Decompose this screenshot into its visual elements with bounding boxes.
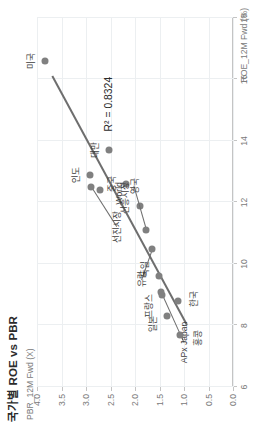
data-point-label: 일본: [146, 316, 158, 332]
data-point[interactable]: [159, 291, 166, 298]
data-point[interactable]: [96, 187, 103, 194]
page-title: 국가별 ROE vs PBR: [4, 316, 20, 422]
y-axis-label: PBR_12M Fwd (X): [25, 348, 35, 420]
data-point-label: 한국: [187, 291, 199, 307]
data-point-label: 중국: [105, 176, 117, 192]
y-tick-label: 3.5: [57, 394, 67, 406]
gridline-horizontal: [233, 18, 234, 387]
plot-area: 6810121416180.00.51.01.52.02.53.03.54.0미…: [37, 18, 233, 387]
y-tick-mark: [111, 387, 112, 391]
data-point-label: 인도: [69, 167, 81, 183]
y-tick-label: 1.5: [155, 394, 165, 406]
data-point[interactable]: [41, 58, 48, 65]
data-point-label: 독일: [138, 261, 150, 277]
data-point[interactable]: [143, 227, 150, 234]
gridline-horizontal: [86, 18, 87, 387]
gridline-horizontal: [209, 18, 210, 387]
y-tick-label: 0.0: [228, 394, 238, 406]
data-point-label: 선진시장: [110, 211, 122, 243]
x-tick-label: 18: [239, 13, 249, 23]
y-tick-mark: [135, 387, 136, 391]
data-point-label: 홍콩: [191, 330, 203, 346]
y-tick-label: 2.5: [106, 394, 116, 406]
data-point[interactable]: [163, 313, 170, 320]
data-point-label: APx Japan: [179, 322, 189, 364]
data-point[interactable]: [86, 171, 93, 178]
y-tick-mark: [62, 387, 63, 391]
y-tick-label: 3.0: [81, 394, 91, 406]
x-tick-label: 10: [239, 259, 249, 269]
r-squared-annotation: R² = 0.8324: [103, 77, 114, 132]
data-point-label: 미국: [24, 53, 36, 69]
y-tick-label: 1.0: [179, 394, 189, 406]
data-point[interactable]: [155, 273, 162, 280]
data-point[interactable]: [87, 184, 94, 191]
x-tick-label: 14: [239, 136, 249, 146]
y-tick-label: 0.5: [204, 394, 214, 406]
gridline-horizontal: [62, 18, 63, 387]
x-tick-label: 6: [239, 385, 249, 390]
y-tick-mark: [86, 387, 87, 391]
y-tick-mark: [209, 387, 210, 391]
data-point-label: 대만: [88, 142, 100, 158]
y-tick-mark: [160, 387, 161, 391]
gridline-horizontal: [135, 18, 136, 387]
x-tick-label: 12: [239, 198, 249, 208]
y-tick-label: 4.0: [32, 394, 42, 406]
data-point[interactable]: [148, 245, 155, 252]
data-point[interactable]: [175, 297, 182, 304]
rotated-chart-wrapper: 국가별 ROE vs PBR PBR_12M Fwd (X) ROE_12M F…: [0, 0, 275, 428]
data-point[interactable]: [177, 331, 184, 338]
y-tick-mark: [184, 387, 185, 391]
x-tick-label: 16: [239, 75, 249, 85]
data-point[interactable]: [106, 147, 113, 154]
gridline-horizontal: [111, 18, 112, 387]
gridline-horizontal: [160, 18, 161, 387]
y-tick-mark: [37, 387, 38, 391]
data-point-label: 영국: [128, 178, 140, 194]
y-tick-label: 2.0: [130, 394, 140, 406]
data-point-label: 프랑스: [142, 294, 154, 318]
x-tick-label: 8: [239, 323, 249, 328]
gridline-horizontal: [37, 18, 38, 387]
y-tick-mark: [233, 387, 234, 391]
chart-root: 국가별 ROE vs PBR PBR_12M Fwd (X) ROE_12M F…: [0, 0, 275, 428]
